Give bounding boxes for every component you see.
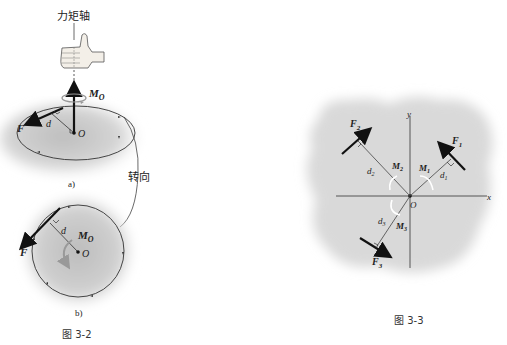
figure-3-3: x y O F1 d1 M1 F2 d2 M2 F3 d3 M3 图 3-3 xyxy=(307,97,493,326)
svg-text:F: F xyxy=(19,246,28,258)
svg-text:a): a) xyxy=(68,179,75,189)
moment-axis-label: 力矩轴 xyxy=(57,9,90,23)
svg-text:y: y xyxy=(406,109,411,119)
svg-text:b): b) xyxy=(75,308,83,318)
svg-text:O: O xyxy=(82,248,89,259)
figure-caption-3-3: 图 3-3 xyxy=(394,315,424,326)
svg-text:转向: 转向 xyxy=(128,170,150,184)
svg-text:O: O xyxy=(410,200,417,210)
svg-text:MO: MO xyxy=(88,87,105,102)
svg-text:x: x xyxy=(486,192,491,202)
figure-caption-3-2: 图 3-2 xyxy=(62,329,92,340)
svg-text:O: O xyxy=(78,128,85,139)
origin-point-a xyxy=(72,131,76,135)
diagram-canvas: 力矩轴 MO F d O a) xyxy=(0,0,507,345)
svg-text:F: F xyxy=(16,122,25,134)
origin-point-b xyxy=(76,250,80,254)
hand-icon xyxy=(61,34,104,68)
figure-3-2: 力矩轴 MO F d O a) xyxy=(0,9,150,340)
